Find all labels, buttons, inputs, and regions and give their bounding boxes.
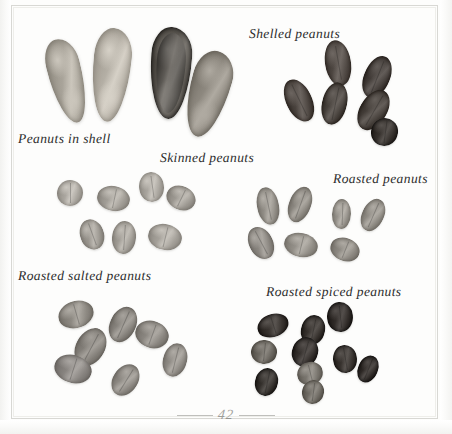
specimen-roasted-peanuts-5 — [242, 222, 279, 263]
caption-roasted-spiced-peanuts: Roasted spiced peanuts — [266, 284, 402, 300]
specimen-shelled-peanuts-1 — [321, 38, 355, 88]
specimen-skinned-peanuts-2 — [95, 183, 132, 214]
kernel-crease — [163, 227, 169, 246]
specimen-roasted-peanuts-4 — [356, 195, 390, 235]
specimen-shelled-peanuts-3 — [277, 75, 320, 127]
kernel-crease — [119, 369, 134, 391]
kernel-crease — [270, 317, 276, 334]
specimen-roasted-spiced-peanuts-7 — [353, 352, 382, 385]
specimen-roasted-peanuts-2 — [283, 183, 316, 225]
kernel-crease — [339, 306, 342, 329]
specimen-skinned-peanuts-5 — [75, 216, 108, 253]
specimen-roasted-peanuts-1 — [253, 185, 282, 227]
specimen-skinned-peanuts-6 — [111, 220, 137, 255]
kernel-crease — [302, 341, 309, 363]
specimen-skinned-peanuts-1 — [57, 180, 83, 206]
specimen-roasted-peanuts-7 — [327, 233, 363, 266]
caption-roasted-peanuts: Roasted peanuts — [333, 171, 428, 187]
specimen-roasted-salted-peanuts-7 — [106, 359, 145, 401]
kernel-crease — [88, 223, 97, 245]
shell-seam — [153, 32, 188, 115]
kernel-crease — [312, 383, 316, 401]
book-page: Peanuts in shell Shelled peanuts Skinned… — [0, 0, 452, 434]
kernel-crease — [177, 190, 186, 207]
specimen-roasted-salted-peanuts-5 — [159, 341, 191, 380]
caption-skinned-peanuts: Skinned peanuts — [160, 150, 254, 166]
kernel-crease — [343, 348, 348, 369]
kernel-crease — [335, 46, 342, 81]
kernel-crease — [264, 372, 269, 393]
specimen-roasted-peanuts-6 — [282, 229, 321, 261]
paper-edge-right — [440, 0, 452, 434]
kernel-crease — [265, 192, 272, 220]
caption-roasted-salted-peanuts: Roasted salted peanuts — [18, 268, 151, 284]
kernel-crease — [295, 191, 306, 218]
kernel-crease — [299, 236, 304, 254]
caption-peanuts-in-shell: Peanuts in shell — [18, 131, 111, 147]
kernel-crease — [172, 347, 179, 372]
specimen-roasted-spiced-peanuts-3 — [326, 301, 355, 334]
specimen-peanuts-in-shell-2 — [87, 26, 135, 123]
specimen-roasted-spiced-peanuts-1 — [254, 310, 292, 342]
kernel-crease — [70, 183, 71, 203]
kernel-crease — [148, 325, 156, 345]
kernel-crease — [341, 203, 343, 226]
specimen-roasted-peanuts-3 — [331, 199, 351, 230]
kernel-crease — [73, 304, 80, 324]
kernel-crease — [117, 312, 129, 338]
folio-rule-left — [177, 415, 213, 416]
specimen-roasted-salted-peanuts-1 — [55, 297, 97, 333]
specimen-roasted-salted-peanuts-3 — [131, 316, 172, 353]
specimen-skinned-peanuts-3 — [137, 170, 166, 203]
specimen-shelled-peanuts-4 — [318, 80, 351, 127]
caption-shelled-peanuts: Shelled peanuts — [249, 26, 340, 42]
kernel-crease — [255, 231, 268, 254]
kernel-crease — [383, 121, 387, 142]
specimen-skinned-peanuts-4 — [162, 181, 199, 216]
kernel-crease — [150, 176, 154, 199]
specimen-roasted-spiced-peanuts-6 — [331, 343, 359, 375]
specimen-roasted-spiced-peanuts-4 — [250, 339, 278, 366]
kernel-crease — [70, 359, 78, 380]
kernel-crease — [342, 241, 349, 258]
folio-rule-right — [239, 415, 275, 416]
specimen-skinned-peanuts-7 — [145, 220, 184, 253]
specimen-peanuts-in-shell-1 — [40, 35, 94, 127]
kernel-crease — [364, 359, 373, 379]
kernel-crease — [123, 225, 126, 250]
kernel-crease — [263, 343, 266, 361]
kernel-crease — [368, 203, 379, 227]
kernel-crease — [371, 61, 384, 92]
kernel-crease — [112, 189, 117, 208]
paper-edge-bottom — [0, 420, 452, 434]
kernel-crease — [331, 88, 339, 120]
kernel-crease — [291, 85, 307, 116]
paper-edge-left — [0, 0, 11, 434]
specimen-roasted-spiced-peanuts-8 — [252, 366, 280, 398]
kernel-crease — [83, 334, 98, 361]
